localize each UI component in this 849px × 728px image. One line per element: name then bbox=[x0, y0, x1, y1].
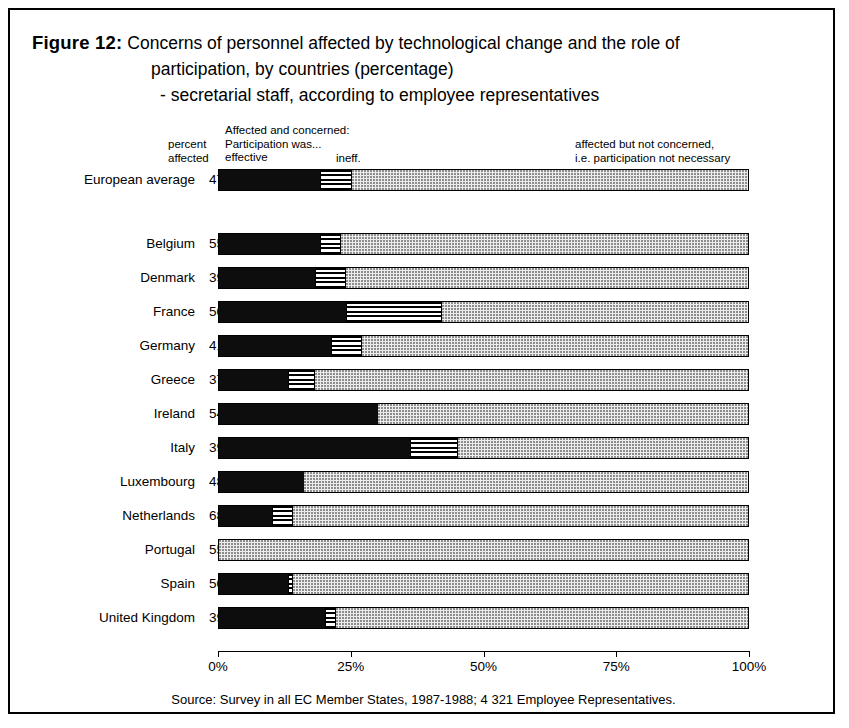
row-country-label: Greece bbox=[10, 372, 195, 387]
chart-row: France50 bbox=[10, 301, 837, 325]
bar-segment-ineffective bbox=[325, 608, 336, 628]
stacked-bar bbox=[218, 267, 749, 289]
stacked-bar bbox=[218, 539, 749, 561]
chart-row: Portugal55 bbox=[10, 539, 837, 563]
x-axis-tick-label: 100% bbox=[732, 659, 767, 674]
bar-segment-effective bbox=[219, 574, 288, 594]
bar-segment-not-concerned bbox=[219, 540, 749, 560]
bar-segment-effective bbox=[219, 336, 331, 356]
bar-segment-not-concerned bbox=[293, 574, 749, 594]
chart-row: European average47 bbox=[10, 169, 837, 193]
row-country-label: Belgium bbox=[10, 236, 195, 251]
row-country-label: Netherlands bbox=[10, 508, 195, 523]
bar-segment-effective bbox=[219, 234, 320, 254]
bar-segment-effective bbox=[219, 170, 320, 190]
stacked-bar bbox=[218, 607, 749, 629]
x-axis-tick bbox=[351, 651, 352, 657]
row-country-label: Portugal bbox=[10, 542, 195, 557]
bar-segment-ineffective bbox=[320, 234, 341, 254]
bar-segment-not-concerned bbox=[293, 506, 749, 526]
x-axis: 0%25%50%75%100% bbox=[218, 651, 749, 685]
chart-row: Ireland54 bbox=[10, 403, 837, 427]
x-axis-tick bbox=[484, 651, 485, 657]
row-country-label: Germany bbox=[10, 338, 195, 353]
bar-segment-not-concerned bbox=[336, 608, 749, 628]
row-country-label: Luxembourg bbox=[10, 474, 195, 489]
x-axis-tick bbox=[218, 651, 219, 657]
chart-row: Greece37 bbox=[10, 369, 837, 393]
x-axis-tick-label: 25% bbox=[337, 659, 364, 674]
bar-segment-not-concerned bbox=[442, 302, 749, 322]
row-country-label: Italy bbox=[10, 440, 195, 455]
bar-segment-ineffective bbox=[315, 268, 347, 288]
row-country-label: United Kingdom bbox=[10, 610, 195, 625]
source-note: Source: Survey in all EC Member States, … bbox=[10, 692, 837, 707]
bar-segment-effective bbox=[219, 268, 315, 288]
bar-segment-effective bbox=[219, 472, 304, 492]
chart-row: Spain50 bbox=[10, 573, 837, 597]
bar-segment-not-concerned bbox=[304, 472, 749, 492]
stacked-bar bbox=[218, 573, 749, 595]
bar-segment-effective bbox=[219, 608, 325, 628]
chart-row: United Kingdom39 bbox=[10, 607, 837, 631]
chart-row: Belgium55 bbox=[10, 233, 837, 257]
stacked-bar bbox=[218, 437, 749, 459]
stacked-bar bbox=[218, 369, 749, 391]
x-axis-tick bbox=[616, 651, 617, 657]
bar-segment-ineffective bbox=[331, 336, 363, 356]
chart-row: Italy39 bbox=[10, 437, 837, 461]
bar-segment-not-concerned bbox=[341, 234, 749, 254]
x-axis-tick-label: 50% bbox=[470, 659, 497, 674]
bar-segment-not-concerned bbox=[378, 404, 749, 424]
row-country-label: European average bbox=[10, 172, 195, 187]
stacked-bar bbox=[218, 505, 749, 527]
stacked-bar bbox=[218, 169, 749, 191]
x-axis-tick-label: 75% bbox=[603, 659, 630, 674]
bar-segment-effective bbox=[219, 506, 272, 526]
bar-segment-not-concerned bbox=[315, 370, 749, 390]
row-country-label: France bbox=[10, 304, 195, 319]
stacked-bar bbox=[218, 471, 749, 493]
bar-segment-effective bbox=[219, 438, 410, 458]
bar-segment-ineffective bbox=[272, 506, 293, 526]
bar-segment-not-concerned bbox=[352, 170, 749, 190]
chart-row: Netherlands68 bbox=[10, 505, 837, 529]
bar-segment-effective bbox=[219, 370, 288, 390]
stacked-bar bbox=[218, 233, 749, 255]
row-country-label: Denmark bbox=[10, 270, 195, 285]
chart-plot-area: European average47Belgium55Denmark39Fran… bbox=[10, 10, 837, 716]
bar-segment-effective bbox=[219, 302, 346, 322]
bar-segment-not-concerned bbox=[346, 268, 749, 288]
chart-row: Luxembourg48 bbox=[10, 471, 837, 495]
chart-row: Germany41 bbox=[10, 335, 837, 359]
x-axis-tick bbox=[749, 651, 750, 657]
bar-segment-ineffective bbox=[410, 438, 458, 458]
figure-frame: Figure 12: Concerns of personnel affecte… bbox=[8, 8, 835, 714]
row-country-label: Spain bbox=[10, 576, 195, 591]
stacked-bar bbox=[218, 335, 749, 357]
bar-segment-ineffective bbox=[288, 370, 315, 390]
bar-segment-not-concerned bbox=[458, 438, 749, 458]
bar-segment-not-concerned bbox=[362, 336, 749, 356]
x-axis-tick-label: 0% bbox=[208, 659, 228, 674]
stacked-bar bbox=[218, 403, 749, 425]
bar-segment-effective bbox=[219, 404, 378, 424]
bar-segment-ineffective bbox=[346, 302, 442, 322]
stacked-bar bbox=[218, 301, 749, 323]
bar-segment-ineffective bbox=[320, 170, 352, 190]
chart-row: Denmark39 bbox=[10, 267, 837, 291]
row-country-label: Ireland bbox=[10, 406, 195, 421]
